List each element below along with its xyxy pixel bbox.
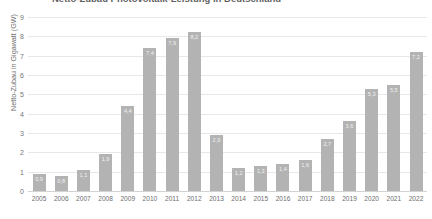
bar: 1,2 bbox=[232, 168, 245, 191]
bar-slot: 1,4 bbox=[272, 17, 294, 191]
bar-slot: 5,3 bbox=[361, 17, 383, 191]
bar-value-label: 2,9 bbox=[213, 137, 221, 143]
chart-title: Netto-Zubau Photovoltaik-Leistung in Deu… bbox=[52, 0, 392, 5]
y-tick-label: 2 bbox=[20, 149, 24, 156]
bar: 7,9 bbox=[166, 38, 179, 191]
bar-slot: 2,7 bbox=[316, 17, 338, 191]
bar-slot: 1,3 bbox=[250, 17, 272, 191]
bar-slot: 5,5 bbox=[383, 17, 405, 191]
bar-slot: 1,6 bbox=[294, 17, 316, 191]
x-tick-label: 2006 bbox=[50, 195, 72, 202]
bar-value-label: 7,9 bbox=[168, 40, 176, 46]
x-tick-label: 2011 bbox=[161, 195, 183, 202]
x-tick-label: 2008 bbox=[95, 195, 117, 202]
y-axis-title: Netto-Zubau in Gigawatt (GW) bbox=[9, 0, 18, 133]
x-tick-label: 2009 bbox=[117, 195, 139, 202]
bar-slot: 3,6 bbox=[338, 17, 360, 191]
x-axis-line bbox=[28, 191, 427, 192]
x-tick-label: 2020 bbox=[361, 195, 383, 202]
x-tick-label: 2013 bbox=[205, 195, 227, 202]
bar-slot: 2,9 bbox=[205, 17, 227, 191]
bar: 1,1 bbox=[77, 170, 90, 191]
bar-value-label: 7,4 bbox=[146, 50, 154, 56]
bar-value-label: 1,9 bbox=[102, 156, 110, 162]
x-tick-label: 2018 bbox=[316, 195, 338, 202]
bar: 2,9 bbox=[210, 135, 223, 191]
x-tick-label: 2021 bbox=[383, 195, 405, 202]
bar-value-label: 1,4 bbox=[279, 166, 287, 172]
bar-slot: 1,2 bbox=[228, 17, 250, 191]
bar: 7,4 bbox=[143, 48, 156, 191]
bar-value-label: 1,6 bbox=[301, 162, 309, 168]
x-tick-label: 2007 bbox=[72, 195, 94, 202]
y-tick-label: 6 bbox=[20, 72, 24, 79]
bar-value-label: 4,4 bbox=[124, 108, 132, 114]
x-tick-label: 2010 bbox=[139, 195, 161, 202]
bar-value-label: 5,3 bbox=[368, 91, 376, 97]
bar-value-label: 8,2 bbox=[190, 34, 198, 40]
bar: 5,3 bbox=[365, 89, 378, 191]
bar: 5,5 bbox=[387, 85, 400, 191]
bar-slot: 8,2 bbox=[183, 17, 205, 191]
bar-series: 0,90,81,11,94,47,47,98,22,91,21,31,41,62… bbox=[28, 17, 427, 191]
x-tick-label: 2012 bbox=[183, 195, 205, 202]
x-tick-label: 2014 bbox=[228, 195, 250, 202]
bar: 1,4 bbox=[276, 164, 289, 191]
bar-value-label: 5,5 bbox=[390, 87, 398, 93]
bar-value-label: 7,2 bbox=[412, 54, 420, 60]
bar-slot: 4,4 bbox=[117, 17, 139, 191]
bar: 1,9 bbox=[99, 154, 112, 191]
bar-value-label: 1,3 bbox=[257, 168, 265, 174]
x-tick-label: 2017 bbox=[294, 195, 316, 202]
bar-slot: 7,2 bbox=[405, 17, 427, 191]
page-edge bbox=[0, 218, 432, 219]
y-tick-label: 8 bbox=[20, 33, 24, 40]
x-tick-label: 2016 bbox=[272, 195, 294, 202]
bar-chart: Netto-Zubau Photovoltaik-Leistung in Deu… bbox=[0, 0, 432, 219]
y-tick-label: 9 bbox=[20, 14, 24, 21]
bar-value-label: 3,6 bbox=[346, 123, 354, 129]
y-tick-label: 1 bbox=[20, 168, 24, 175]
bar-slot: 7,9 bbox=[161, 17, 183, 191]
bar-slot: 0,9 bbox=[28, 17, 50, 191]
bar: 1,6 bbox=[299, 160, 312, 191]
x-tick-label: 2022 bbox=[405, 195, 427, 202]
bar-slot: 0,8 bbox=[50, 17, 72, 191]
plot-area: 0123456789 0,90,81,11,94,47,47,98,22,91,… bbox=[28, 17, 427, 192]
x-tick-label: 2015 bbox=[250, 195, 272, 202]
bar: 0,9 bbox=[33, 174, 46, 191]
y-tick-label: 0 bbox=[20, 188, 24, 195]
bar-slot: 7,4 bbox=[139, 17, 161, 191]
bar-value-label: 0,8 bbox=[57, 178, 65, 184]
bar-value-label: 0,9 bbox=[35, 176, 43, 182]
bar: 2,7 bbox=[321, 139, 334, 191]
bar: 0,8 bbox=[55, 176, 68, 191]
x-tick-label: 2005 bbox=[28, 195, 50, 202]
y-tick-label: 4 bbox=[20, 110, 24, 117]
bar-slot: 1,9 bbox=[95, 17, 117, 191]
bar-value-label: 2,7 bbox=[323, 141, 331, 147]
bar-value-label: 1,2 bbox=[235, 170, 243, 176]
y-tick-label: 7 bbox=[20, 52, 24, 59]
bar: 4,4 bbox=[121, 106, 134, 191]
x-axis-ticks: 2005200620072008200920102011201220132014… bbox=[28, 195, 427, 202]
bar-value-label: 1,1 bbox=[80, 172, 88, 178]
bar: 7,2 bbox=[410, 52, 423, 191]
bar: 1,3 bbox=[254, 166, 267, 191]
y-tick-label: 3 bbox=[20, 130, 24, 137]
x-tick-label: 2019 bbox=[338, 195, 360, 202]
bar-slot: 1,1 bbox=[72, 17, 94, 191]
y-tick-label: 5 bbox=[20, 91, 24, 98]
bar: 8,2 bbox=[188, 32, 201, 191]
bar: 3,6 bbox=[343, 121, 356, 191]
